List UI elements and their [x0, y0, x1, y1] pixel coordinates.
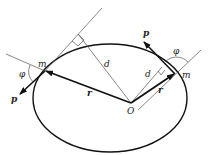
label-momentum-left: p — [11, 94, 18, 104]
right-tangent-line — [138, 50, 201, 110]
label-origin: O — [127, 106, 135, 116]
label-mass-right: m — [182, 70, 191, 80]
orbit-diagram: m φ p r d O p φ m d r — [0, 0, 208, 155]
label-distance-left: d — [104, 59, 110, 69]
label-angle-left: φ — [19, 69, 26, 79]
left-angle-arc — [29, 65, 33, 82]
left-radius-vector — [46, 71, 131, 103]
label-distance-right: d — [145, 69, 151, 79]
label-angle-right: φ — [173, 46, 180, 56]
label-mass-left: m — [38, 59, 47, 69]
label-radius-left: r — [87, 88, 93, 98]
left-tangent-extension — [45, 8, 102, 71]
elliptical-orbit — [33, 44, 187, 152]
label-momentum-right: p — [143, 28, 150, 38]
